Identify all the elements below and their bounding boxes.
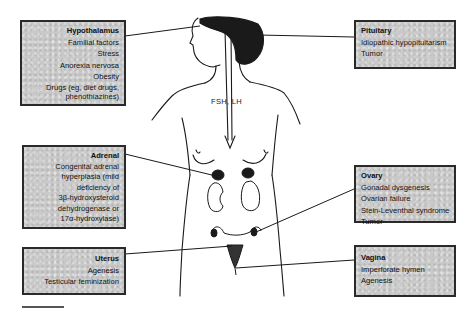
vagina-title: Vagina xyxy=(361,252,449,264)
box-item: Agenesis xyxy=(29,265,119,277)
hypothalamus-title: Hypothalamus xyxy=(27,25,119,37)
box-item: Idiopathic hypopituitarism xyxy=(361,37,449,49)
right-adrenal xyxy=(242,168,254,178)
leader-vagina xyxy=(236,260,354,268)
leader-uterus xyxy=(125,246,232,254)
leader-adrenal xyxy=(125,154,216,176)
box-item: phenothiazines) xyxy=(27,92,119,101)
box-item: dehydrogenase or xyxy=(29,204,119,215)
box-item: Congenital adrenal xyxy=(29,162,119,173)
box-item: Drugs (eg, diet drugs, xyxy=(27,83,119,92)
ovary-title: Ovary xyxy=(361,170,449,182)
hypothalamus-box: Hypothalamus Familial factors Stress Ano… xyxy=(20,20,126,106)
scale-bar xyxy=(22,306,64,308)
box-item: Tumor xyxy=(361,48,449,60)
vagina-box: Vagina Imperforate hymen Agenesis xyxy=(354,245,456,297)
box-item: Anorexia nervosa xyxy=(27,60,119,72)
box-item: Familial factors xyxy=(27,37,119,49)
pituitary-box: Pituitary Idiopathic hypopituitarism Tum… xyxy=(354,20,456,69)
leader-pituitary xyxy=(258,35,354,37)
box-item: Obesity xyxy=(27,71,119,83)
uterus-title: Uterus xyxy=(29,253,119,265)
box-item: Ovarian failure xyxy=(361,193,449,205)
box-item: Testicular feminization xyxy=(29,276,119,288)
leader-ovary xyxy=(256,189,354,232)
box-item: Stein-Leventhal syndrome xyxy=(361,205,449,217)
leader-hypothalamus xyxy=(125,26,200,36)
box-item: 17α-hydroxylase) xyxy=(29,214,119,225)
box-item: 3β-hydroxysteroid xyxy=(29,193,119,204)
left-kidney xyxy=(208,183,223,212)
right-kidney xyxy=(241,181,259,211)
box-item: Agenesis xyxy=(361,275,449,287)
box-item: deficiency of xyxy=(29,183,119,194)
adrenal-title: Adrenal xyxy=(29,151,119,162)
box-item: Gonadal dysgenesis xyxy=(361,182,449,194)
fsh-lh-label: FSH, LH xyxy=(211,97,242,106)
box-item: hyperplasia (mild xyxy=(29,172,119,183)
pituitary-title: Pituitary xyxy=(361,25,449,37)
adrenal-box: Adrenal Congenital adrenal hyperplasia (… xyxy=(22,145,126,229)
box-item: Imperforate hymen xyxy=(361,264,449,276)
box-item: Tumor xyxy=(361,216,449,228)
left-ovary xyxy=(211,229,217,237)
box-item: Stress xyxy=(27,48,119,60)
ovary-box: Ovary Gonadal dysgenesis Ovarian failure… xyxy=(354,165,456,223)
uterus-shape xyxy=(227,245,243,268)
uterus-box: Uterus Agenesis Testicular feminization xyxy=(22,247,126,295)
